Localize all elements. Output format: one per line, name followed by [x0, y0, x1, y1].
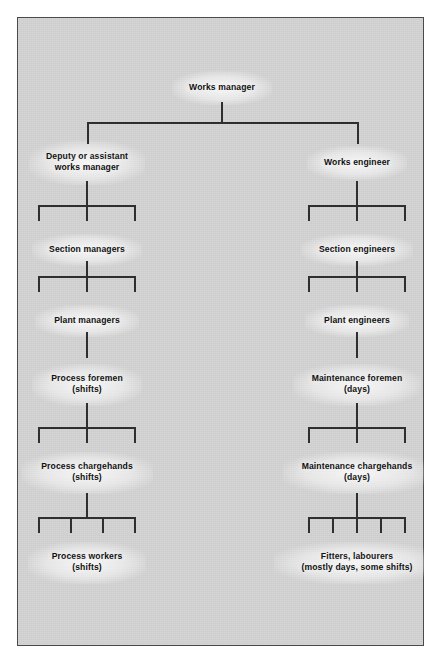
connector-right-stem-4	[356, 403, 358, 427]
node-works-manager: Works manager	[189, 82, 255, 93]
node-label-line2: (days)	[302, 472, 413, 483]
node-label-line1: Section engineers	[319, 244, 395, 254]
connector-right-bar-5-prong-3	[356, 517, 358, 533]
node-plant-managers: Plant managers	[54, 315, 120, 326]
node-label-line1: Works manager	[189, 82, 255, 92]
connector-right-stem-1	[356, 181, 358, 205]
node-label-line1: Plant engineers	[324, 315, 390, 325]
diagram-page: Works manager Deputy or assistant works …	[0, 0, 441, 664]
node-maintenance-foremen: Maintenance foremen (days)	[312, 373, 403, 395]
node-process-foremen: Process foremen (shifts)	[51, 373, 123, 395]
connector-left-bar-5-prong-1	[38, 517, 40, 533]
diagram-frame: Works manager Deputy or assistant works …	[17, 17, 424, 646]
connector-top-prong-right	[357, 122, 359, 144]
connector-left-bar-1-prong-3	[134, 205, 136, 221]
node-label-line1: Deputy or assistant	[46, 151, 128, 161]
node-works-engineer: Works engineer	[324, 157, 390, 168]
connector-right-bar-5-prong-5	[404, 517, 406, 533]
connector-left-bar-4-prong-2	[86, 427, 88, 443]
node-label-line1: Process foremen	[51, 373, 123, 383]
connector-right-bar-2-prong-1	[308, 276, 310, 292]
node-label-line1: Maintenance foremen	[312, 373, 403, 383]
node-maintenance-chargehands: Maintenance chargehands (days)	[302, 461, 413, 483]
node-deputy-works-manager: Deputy or assistant works manager	[46, 151, 128, 173]
connector-left-bar-4-prong-1	[38, 427, 40, 443]
connector-right-bar-4-prong-2	[356, 427, 358, 443]
connector-left-stem-5	[86, 493, 88, 517]
connector-right-bar-2-prong-3	[404, 276, 406, 292]
node-fitters-labourers: Fitters, labourers (mostly days, some sh…	[301, 551, 412, 573]
connector-root-stem	[221, 102, 223, 122]
connector-top-prong-left	[87, 122, 89, 144]
node-label-line1: Works engineer	[324, 157, 390, 167]
connector-left-bar-5	[38, 517, 136, 519]
node-process-workers: Process workers (shifts)	[52, 551, 123, 573]
connector-right-bar-1-prong-3	[404, 205, 406, 221]
node-label-line2: (days)	[312, 384, 403, 395]
connector-top-bar	[87, 122, 359, 124]
connector-right-bar-4-prong-1	[308, 427, 310, 443]
connector-left-bar-2-prong-1	[38, 276, 40, 292]
connector-left-bar-2-prong-2	[86, 276, 88, 292]
connector-left-bar-2-prong-3	[134, 276, 136, 292]
node-label-line1: Plant managers	[54, 315, 120, 325]
node-label-line2: (shifts)	[52, 562, 123, 573]
connector-left-bar-5-prong-4	[134, 517, 136, 533]
connector-right-bar-4-prong-3	[404, 427, 406, 443]
connector-right-bar-5-prong-2	[332, 517, 334, 533]
node-label-line1: Process workers	[52, 551, 123, 561]
connector-left-stem-3	[86, 332, 88, 358]
node-label-line2: works manager	[46, 162, 128, 173]
node-label-line2: (shifts)	[41, 472, 133, 483]
connector-left-bar-5-prong-2	[70, 517, 72, 533]
node-label-line2: (shifts)	[51, 384, 123, 395]
connector-right-stem-5	[356, 493, 358, 517]
connector-left-bar-4-prong-3	[134, 427, 136, 443]
connector-left-bar-5-prong-3	[102, 517, 104, 533]
connector-right-stem-3	[356, 332, 358, 358]
node-section-managers: Section managers	[49, 244, 125, 255]
connector-right-bar-1-prong-2	[356, 205, 358, 221]
node-label-line1: Process chargehands	[41, 461, 133, 471]
connector-left-stem-1	[86, 181, 88, 205]
node-plant-engineers: Plant engineers	[324, 315, 390, 326]
node-section-engineers: Section engineers	[319, 244, 395, 255]
node-process-chargehands: Process chargehands (shifts)	[41, 461, 133, 483]
connector-left-bar-1-prong-2	[86, 205, 88, 221]
connector-right-bar-5-prong-1	[308, 517, 310, 533]
node-label-line2: (mostly days, some shifts)	[301, 562, 412, 573]
connector-right-bar-5-prong-4	[380, 517, 382, 533]
connector-right-bar-1-prong-1	[308, 205, 310, 221]
node-label-line1: Section managers	[49, 244, 125, 254]
connector-right-bar-2-prong-2	[356, 276, 358, 292]
connector-left-bar-1-prong-1	[38, 205, 40, 221]
node-label-line1: Maintenance chargehands	[302, 461, 413, 471]
connector-left-stem-4	[86, 403, 88, 427]
node-label-line1: Fitters, labourers	[321, 551, 393, 561]
